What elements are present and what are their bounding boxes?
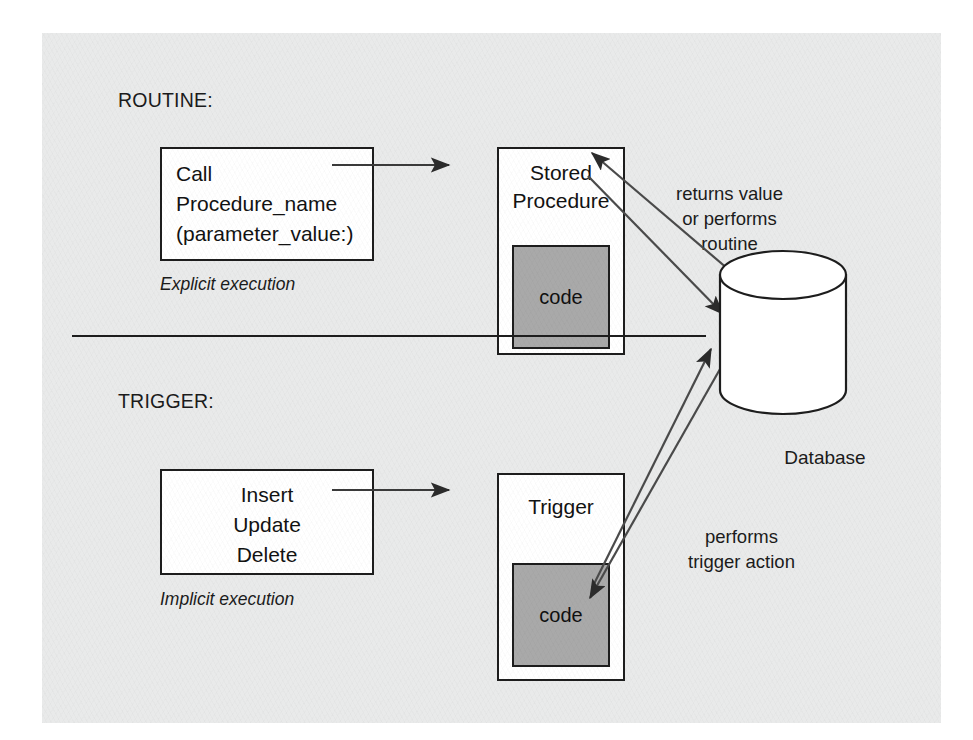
dml-action-line-2: Update xyxy=(162,510,372,540)
performs-trigger-action-annotation: performs trigger action xyxy=(688,524,795,574)
returns-value-annotation: returns value or performs routine xyxy=(676,181,783,256)
performs-annotation-line-2: trigger action xyxy=(688,549,795,574)
database-label: Database xyxy=(762,447,888,469)
stored-procedure-title-line-1: Stored xyxy=(499,159,623,187)
implicit-execution-caption: Implicit execution xyxy=(160,589,294,610)
returns-annotation-line-3: routine xyxy=(676,231,783,256)
diagram-panel: ROUTINE: Call Procedure_name (parameter_… xyxy=(42,33,941,723)
section-label-routine: ROUTINE: xyxy=(118,89,213,112)
dml-actions-box: Insert Update Delete xyxy=(160,469,374,575)
returns-annotation-line-2: or performs xyxy=(676,206,783,231)
section-label-trigger: TRIGGER: xyxy=(118,390,214,413)
stored-procedure-box: Stored Procedure code xyxy=(497,147,625,355)
dml-action-line-3: Delete xyxy=(162,540,372,570)
stored-procedure-title-line-2: Procedure xyxy=(499,187,623,215)
performs-annotation-line-1: performs xyxy=(688,524,795,549)
stored-procedure-code-block: code xyxy=(512,245,610,349)
trigger-box-title: Trigger xyxy=(499,493,623,521)
call-box-line-2: Procedure_name xyxy=(176,189,372,219)
trigger-box: Trigger code xyxy=(497,473,625,681)
explicit-execution-caption: Explicit execution xyxy=(160,274,295,295)
call-box-line-3: (parameter_value:) xyxy=(176,219,372,249)
trigger-code-block: code xyxy=(512,563,610,667)
dml-action-line-1: Insert xyxy=(162,480,372,510)
call-procedure-box: Call Procedure_name (parameter_value:) xyxy=(160,147,374,261)
call-box-line-1: Call xyxy=(176,159,372,189)
diagram-page: ROUTINE: Call Procedure_name (parameter_… xyxy=(0,0,973,740)
returns-annotation-line-1: returns value xyxy=(676,181,783,206)
